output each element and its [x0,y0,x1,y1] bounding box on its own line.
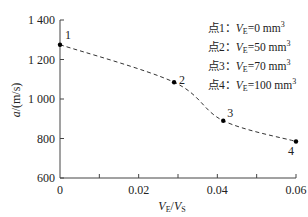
point-label: 2 [179,73,185,87]
x-axis-label: VE/VS [158,199,185,214]
y-axis-label: a/(m/s) [9,83,23,118]
legend-item: 点3：VE=70 mm3 [208,58,290,74]
x-tick-label: 0.06 [286,183,307,197]
point-label: 1 [65,28,71,42]
legend-item: 点4：VE=100 mm3 [208,77,296,93]
y-tick-label: 1 200 [28,53,55,67]
y-tick-label: 600 [37,171,55,185]
legend-item: 点2：VE=50 mm3 [208,39,290,55]
legend-item: 点1：VE=0 mm3 [208,20,285,36]
data-point [294,139,298,143]
chart: 6008001 0001 2001 400 00.020.040.06 1234… [0,0,308,217]
data-point [221,119,225,123]
y-tick-label: 1 400 [28,13,55,27]
data-point [58,42,62,46]
legend: 点1：VE=0 mm3点2：VE=50 mm3点3：VE=70 mm3点4：VE… [208,20,296,93]
y-tick-label: 800 [37,132,55,146]
point-label: 4 [288,144,294,158]
y-tick-label: 1 000 [28,92,55,106]
point-label: 3 [227,106,233,120]
data-point [172,80,176,84]
x-tick-label: 0.04 [207,183,228,197]
x-tick-label: 0.02 [128,183,149,197]
y-tick-labels: 6008001 0001 2001 400 [28,13,55,185]
x-tick-label: 0 [57,183,63,197]
x-tick-labels: 00.020.040.06 [57,183,307,197]
